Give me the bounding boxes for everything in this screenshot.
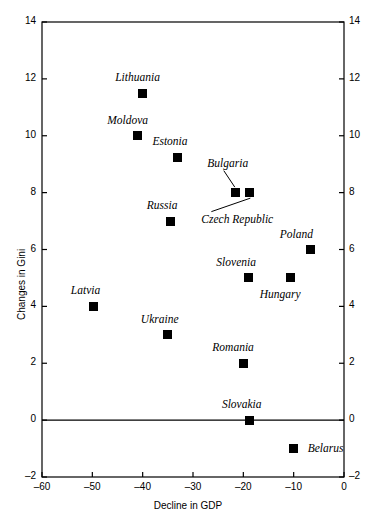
x-tick-label: 0 (314, 481, 374, 492)
data-marker (289, 444, 298, 453)
data-point-label: Slovakia (222, 398, 262, 410)
data-marker (244, 273, 253, 282)
data-marker (138, 89, 147, 98)
y-tick-label-right: 2 (349, 356, 376, 367)
data-point-label: Belarus (308, 442, 344, 454)
data-marker (306, 245, 315, 254)
data-point-label: Russia (147, 199, 178, 211)
data-marker (245, 416, 254, 425)
y-tick-label-left: 10 (0, 129, 36, 140)
data-point-label: Bulgaria (207, 157, 248, 169)
data-point-label: Ukraine (141, 313, 179, 325)
data-point-label: Latvia (71, 284, 100, 296)
label-leader-line (211, 198, 250, 212)
axes-group (42, 22, 344, 477)
y-tick-label-right: 8 (349, 186, 376, 197)
y-tick-label-right: 12 (349, 72, 376, 83)
data-point-label: Poland (280, 228, 313, 240)
y-tick-label-right: 0 (349, 413, 376, 424)
y-tick-label-left: 12 (0, 72, 36, 83)
y-tick-label-left: 14 (0, 15, 36, 26)
plot-frame (42, 22, 344, 477)
data-marker (231, 188, 240, 197)
y-tick-label-right: 6 (349, 243, 376, 254)
data-marker (133, 131, 142, 140)
y-tick-label-right: 10 (349, 129, 376, 140)
data-point-label: Moldova (107, 114, 148, 126)
y-tick-label-left: 0 (0, 413, 36, 424)
data-marker (239, 359, 248, 368)
y-tick-label-right: 4 (349, 299, 376, 310)
data-marker (163, 330, 172, 339)
x-axis-title: Decline in GDP (0, 500, 376, 511)
y-tick-label-left: 8 (0, 186, 36, 197)
data-point-label: Romania (212, 341, 254, 353)
data-point-label: Czech Republic (201, 213, 273, 225)
data-point-label: Hungary (260, 288, 301, 300)
data-marker (173, 153, 182, 162)
data-point-label: Slovenia (216, 256, 256, 268)
y-axis-title: Changes in Gini (16, 249, 27, 320)
y-tick-label-right: 14 (349, 15, 376, 26)
y-tick-label-right: –2 (349, 470, 376, 481)
data-marker (166, 217, 175, 226)
y-tick-label-left: –2 (0, 470, 36, 481)
scatter-plot-figure: –60–50–40–30–20–100–2–200224466881010121… (0, 0, 376, 523)
data-point-label: Estonia (152, 135, 187, 147)
label-leader-line (224, 171, 235, 188)
data-marker (245, 188, 254, 197)
y-tick-label-left: 2 (0, 356, 36, 367)
data-marker (286, 273, 295, 282)
data-point-label: Lithuania (115, 71, 160, 83)
data-marker (89, 302, 98, 311)
